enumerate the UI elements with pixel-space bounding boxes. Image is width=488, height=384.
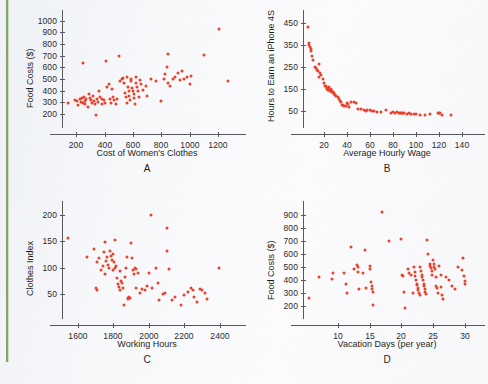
data-point [414, 274, 417, 277]
x-tick-d-4 [465, 323, 466, 328]
y-tick-label-d-5: 700 [257, 236, 298, 246]
data-point [464, 283, 467, 286]
data-point [365, 287, 368, 290]
x-axis-title-d: Vacation Days (per year) [338, 339, 437, 349]
y-tick-label-d-6: 800 [257, 223, 298, 233]
data-point [403, 290, 406, 293]
y-tick-label-d-4: 600 [257, 249, 298, 259]
y-tick-label-d-2: 400 [257, 275, 298, 285]
x-axis-line-d [291, 325, 485, 326]
data-point [441, 298, 444, 301]
data-point [400, 237, 403, 240]
panel-letter-d: D [383, 354, 390, 365]
data-point [434, 276, 437, 279]
data-point [369, 268, 372, 271]
data-point [368, 264, 371, 267]
data-point [418, 293, 421, 296]
data-point [419, 269, 422, 272]
y-tick-label-d-7: 900 [257, 210, 298, 220]
data-point [411, 291, 414, 294]
figure-page: 2003004005006007008009001000200400600800… [0, 0, 488, 384]
data-point [330, 277, 333, 280]
data-point [440, 285, 443, 288]
y-tick-label-d-3: 500 [257, 262, 298, 272]
y-tick-d-5 [301, 241, 306, 242]
y-tick-d-1 [301, 293, 306, 294]
y-tick-d-7 [301, 215, 306, 216]
y-tick-d-3 [301, 267, 306, 268]
data-point [432, 258, 435, 261]
y-tick-d-0 [301, 306, 306, 307]
data-point [426, 252, 429, 255]
data-point [414, 278, 417, 281]
data-point [438, 265, 441, 268]
data-point [357, 271, 360, 274]
data-point [352, 267, 355, 270]
data-point [425, 293, 428, 296]
data-point [308, 296, 311, 299]
data-point [425, 239, 428, 242]
y-tick-d-2 [301, 280, 306, 281]
data-point [343, 272, 346, 275]
data-point [381, 210, 384, 213]
data-point [357, 287, 360, 290]
x-tick-d-1 [370, 323, 371, 328]
data-point [457, 265, 460, 268]
data-point [437, 291, 440, 294]
data-point [402, 274, 405, 277]
x-tick-d-2 [401, 323, 402, 328]
data-point [462, 256, 465, 259]
y-tick-label-d-0: 200 [257, 301, 298, 311]
data-point [454, 287, 457, 290]
y-tick-label-d-1: 300 [257, 288, 298, 298]
data-point [387, 240, 390, 243]
data-point [460, 269, 463, 272]
y-axis-line-d [303, 201, 304, 319]
data-point [439, 273, 442, 276]
data-point [447, 278, 450, 281]
data-point [362, 272, 365, 275]
scatter-panel-d: 2003004005006007008009001015202530Vacati… [0, 0, 488, 384]
x-tick-d-3 [433, 323, 434, 328]
data-point [433, 268, 436, 271]
data-point [331, 271, 334, 274]
data-point [412, 266, 415, 269]
data-point [345, 292, 348, 295]
data-point [363, 248, 366, 251]
data-point [404, 306, 407, 309]
data-point [356, 266, 359, 269]
data-point [463, 274, 466, 277]
data-point [349, 245, 352, 248]
y-axis-title-d: Food Costs ($) [266, 240, 276, 300]
data-point [371, 290, 374, 293]
data-point [317, 275, 320, 278]
data-point [440, 294, 443, 297]
data-point [435, 287, 438, 290]
data-point [372, 303, 375, 306]
data-point [409, 274, 412, 277]
x-tick-label-d-4: 30 [460, 331, 470, 341]
y-tick-d-4 [301, 254, 306, 255]
x-tick-d-0 [338, 323, 339, 328]
y-tick-d-6 [301, 228, 306, 229]
data-point [413, 271, 416, 274]
data-point [344, 282, 347, 285]
